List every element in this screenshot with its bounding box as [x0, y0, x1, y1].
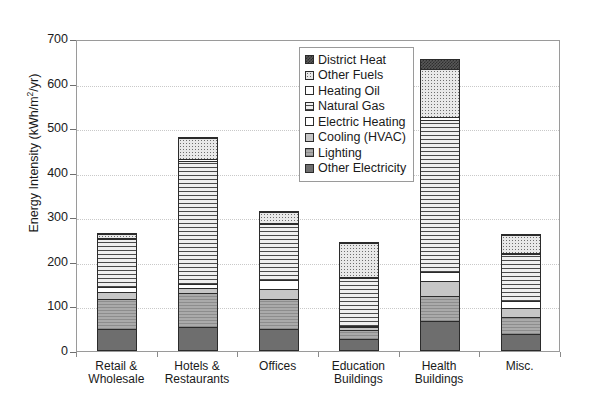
- x-axis-label-line: Buildings: [396, 373, 482, 386]
- x-axis-tick-mark: [479, 352, 480, 357]
- legend-swatch-lighting-icon: [305, 148, 314, 157]
- legend-label: Natural Gas: [318, 100, 385, 113]
- legend-swatch-heating-oil-icon: [305, 86, 314, 95]
- bar-segment-other-fuels: [501, 235, 541, 255]
- legend-label: District Heat: [318, 54, 386, 67]
- legend-swatch-district-heat-icon: [305, 55, 314, 64]
- x-axis-tick-mark: [560, 352, 561, 357]
- gridline: [77, 264, 559, 265]
- legend-item-other-fuels[interactable]: Other Fuels: [305, 68, 406, 84]
- x-axis-tick-mark: [399, 352, 400, 357]
- bar-segment-other-fuels: [420, 69, 460, 118]
- bar-segment-natural-gas: [178, 161, 218, 285]
- legend-item-cooling[interactable]: Cooling (HVAC): [305, 130, 406, 146]
- legend-item-electric-heating[interactable]: Electric Heating: [305, 114, 406, 130]
- legend-label: Lighting: [318, 147, 362, 160]
- x-axis-label-line: Offices: [235, 360, 321, 373]
- x-axis-label-health-buildings: HealthBuildings: [396, 360, 482, 386]
- legend-item-heating-oil[interactable]: Heating Oil: [305, 83, 406, 99]
- bar-segment-other-fuels: [178, 138, 218, 160]
- bar-segment-cooling: [420, 281, 460, 297]
- bar-education-buildings[interactable]: [339, 242, 379, 352]
- bar-hotels-restaurants[interactable]: [178, 137, 218, 351]
- bar-segment-other-electricity: [420, 321, 460, 351]
- bar-segment-natural-gas: [420, 120, 460, 274]
- x-axis-label-retail-wholesale: Retail &Wholesale: [73, 360, 159, 386]
- x-axis-label-hotels-restaurants: Hotels &Restaurants: [154, 360, 240, 386]
- bar-offices[interactable]: [259, 211, 299, 351]
- legend-label: Other Fuels: [318, 69, 383, 82]
- x-axis-tick-mark: [76, 352, 77, 357]
- bar-health-buildings[interactable]: [420, 59, 460, 351]
- gridline: [77, 219, 559, 220]
- bar-segment-lighting: [259, 299, 299, 329]
- x-axis-label-line: Buildings: [315, 373, 401, 386]
- bar-segment-natural-gas: [501, 254, 541, 302]
- bar-segment-natural-gas: [339, 278, 379, 326]
- bar-segment-other-electricity: [259, 329, 299, 351]
- x-axis-tick-mark: [157, 352, 158, 357]
- legend-label: Other Electricity: [318, 162, 406, 175]
- legend-swatch-natural-gas-icon: [305, 102, 314, 111]
- bar-segment-natural-gas: [97, 239, 137, 288]
- y-axis-tick-label: 300: [22, 211, 68, 224]
- x-axis-label-line: Restaurants: [154, 373, 240, 386]
- x-axis-tick-mark: [237, 352, 238, 357]
- legend-label: Cooling (HVAC): [318, 131, 406, 144]
- legend-label: Heating Oil: [318, 85, 380, 98]
- y-axis-tick-label: 400: [22, 167, 68, 180]
- legend-swatch-other-electricity-icon: [305, 164, 314, 173]
- bar-misc[interactable]: [501, 234, 541, 351]
- legend-swatch-cooling-icon: [305, 133, 314, 142]
- bar-segment-lighting: [420, 296, 460, 322]
- legend-item-district-heat[interactable]: District Heat: [305, 52, 406, 68]
- y-axis-tick-label: 100: [22, 300, 68, 313]
- legend-swatch-electric-heating-icon: [305, 117, 314, 126]
- x-axis-label-offices: Offices: [235, 360, 321, 373]
- y-axis-tick-label: 700: [22, 33, 68, 46]
- legend-swatch-other-fuels-icon: [305, 71, 314, 80]
- y-axis-tick-label: 200: [22, 256, 68, 269]
- legend: District HeatOther FuelsHeating OilNatur…: [299, 47, 414, 182]
- x-axis-tick-mark: [318, 352, 319, 357]
- y-axis-title-exponent: 2: [25, 92, 35, 97]
- energy-intensity-stacked-bar-chart: Energy Intensity (kWh/m2/yr) 01002003004…: [0, 0, 597, 413]
- x-axis-label-misc: Misc.: [477, 360, 563, 373]
- bar-segment-lighting: [178, 293, 218, 327]
- bar-segment-lighting: [97, 299, 137, 330]
- y-axis-tick-label: 500: [22, 122, 68, 135]
- bar-segment-other-electricity: [178, 327, 218, 352]
- bar-segment-other-fuels: [339, 243, 379, 279]
- legend-label: Electric Heating: [318, 116, 406, 129]
- legend-item-natural-gas[interactable]: Natural Gas: [305, 99, 406, 115]
- y-axis-tick-label: 0: [22, 345, 68, 358]
- bar-segment-other-electricity: [339, 339, 379, 351]
- legend-item-other-electricity[interactable]: Other Electricity: [305, 161, 406, 177]
- y-axis-tick-label: 600: [22, 78, 68, 91]
- gridline: [77, 308, 559, 309]
- legend-item-lighting[interactable]: Lighting: [305, 145, 406, 161]
- bar-segment-lighting: [501, 317, 541, 335]
- bar-retail-wholesale[interactable]: [97, 233, 137, 351]
- x-axis-label-education-buildings: EducationBuildings: [315, 360, 401, 386]
- x-axis-label-line: Misc.: [477, 360, 563, 373]
- bar-segment-other-electricity: [501, 334, 541, 351]
- bar-segment-other-electricity: [97, 329, 137, 351]
- x-axis-label-line: Wholesale: [73, 373, 159, 386]
- bar-segment-natural-gas: [259, 224, 299, 281]
